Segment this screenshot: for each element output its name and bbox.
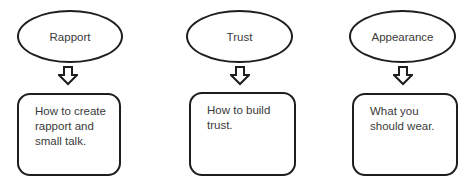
box-line: What you bbox=[370, 104, 446, 119]
heading-appearance: Appearance bbox=[371, 31, 433, 43]
ellipse-appearance: Appearance bbox=[349, 10, 456, 63]
box-line: How to build bbox=[207, 103, 284, 118]
down-arrow-icon bbox=[230, 66, 250, 86]
box-line: trust. bbox=[207, 118, 284, 133]
down-arrow-icon bbox=[393, 66, 413, 86]
column-appearance: Appearance What you should wear. bbox=[0, 0, 160, 185]
box-appearance: What you should wear. bbox=[352, 93, 458, 176]
heading-trust: Trust bbox=[227, 31, 253, 43]
ellipse-trust: Trust bbox=[186, 10, 293, 63]
box-line: should wear. bbox=[370, 119, 446, 134]
box-trust: How to build trust. bbox=[189, 92, 296, 176]
